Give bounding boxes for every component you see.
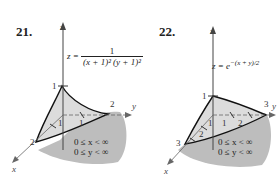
x-tick-2: 2 [199,129,204,139]
figure-22-domain: 0 ≤ x < ∞ 0 ≤ y < ∞ [218,137,252,157]
x-tick-3: 3 [176,138,181,148]
x-tick-1: 1 [208,118,213,128]
y-tick-3: 3 [264,99,269,109]
x-axis-label: x [163,166,168,176]
domain-x: 0 ≤ x < ∞ [218,137,252,147]
z-axis-label: z [209,26,214,36]
y-tick-1: 1 [222,118,227,128]
y-tick-2: 2 [238,118,243,128]
y-axis-label: y [271,101,276,111]
domain-y: 0 ≤ y < ∞ [218,147,252,157]
z-tick-1: 1 [202,91,207,101]
